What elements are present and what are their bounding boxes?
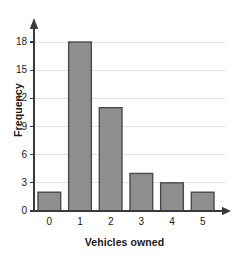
y-tick-label: 15 <box>16 64 28 75</box>
plot-area: 0369121518 012345 <box>0 0 249 256</box>
y-tick-label: 18 <box>16 36 28 47</box>
x-tick-label: 5 <box>200 216 206 227</box>
y-tick-label: 3 <box>21 177 27 188</box>
x-tick-label: 2 <box>108 216 114 227</box>
bar <box>191 192 214 211</box>
x-tick-label: 0 <box>47 216 53 227</box>
x-tick-label: 1 <box>77 216 83 227</box>
bar <box>69 42 92 211</box>
gridlines-group <box>34 42 226 183</box>
bar <box>38 192 61 211</box>
y-tick-label: 12 <box>16 92 28 103</box>
y-tick-labels-group: 0369121518 <box>16 36 34 216</box>
x-tick-label: 3 <box>139 216 145 227</box>
bar <box>130 173 153 211</box>
x-tick-label: 4 <box>169 216 175 227</box>
bar <box>99 108 122 211</box>
x-axis-arrow-icon <box>222 207 231 215</box>
x-tick-labels-group: 012345 <box>47 216 206 227</box>
y-axis-arrow-icon <box>30 18 38 29</box>
y-tick-label: 6 <box>21 149 27 160</box>
bar-chart-figure: Frequency Vehicles owned 0369121518 0123… <box>0 0 249 256</box>
y-tick-label: 9 <box>21 121 27 132</box>
bar <box>161 183 184 211</box>
y-tick-label: 0 <box>21 205 27 216</box>
